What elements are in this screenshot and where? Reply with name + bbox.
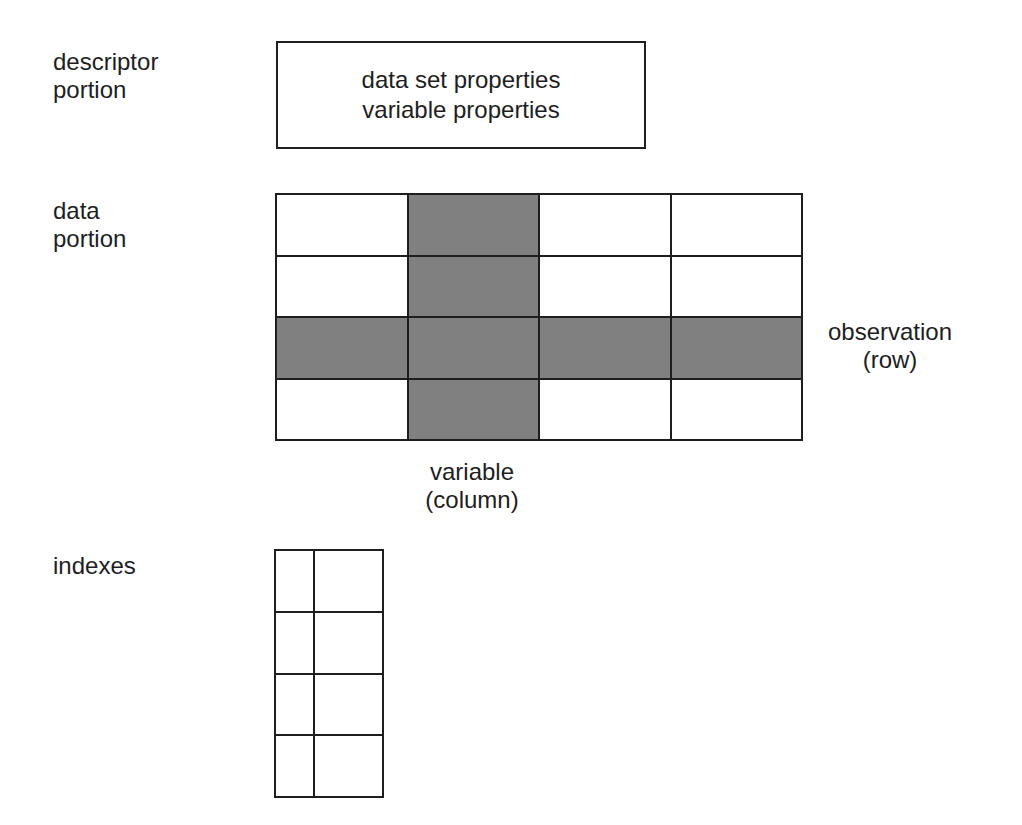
data-cell bbox=[277, 257, 409, 319]
data-cell bbox=[540, 380, 672, 442]
variable-column-cell bbox=[409, 380, 541, 442]
index-key-cell bbox=[276, 613, 315, 675]
variable-column-label: variable (column) bbox=[397, 458, 547, 514]
data-set-properties-text: data set properties bbox=[362, 65, 561, 95]
observation-row-cell bbox=[277, 318, 409, 380]
index-pointer-cell bbox=[315, 736, 384, 798]
data-portion-label: data portion bbox=[53, 197, 126, 253]
data-cell bbox=[672, 195, 804, 257]
index-key-cell bbox=[276, 551, 315, 613]
data-cell bbox=[540, 257, 672, 319]
indexes-grid bbox=[274, 549, 384, 798]
data-cell bbox=[277, 195, 409, 257]
variable-properties-text: variable properties bbox=[362, 95, 559, 125]
indexes-label: indexes bbox=[53, 552, 136, 580]
variable-column-cell bbox=[409, 257, 541, 319]
observation-row-cell bbox=[409, 318, 541, 380]
observation-row-cell bbox=[540, 318, 672, 380]
data-cell bbox=[540, 195, 672, 257]
descriptor-box: data set properties variable properties bbox=[276, 41, 646, 149]
data-cell bbox=[672, 380, 804, 442]
index-pointer-cell bbox=[315, 551, 384, 613]
index-key-cell bbox=[276, 736, 315, 798]
data-cell bbox=[277, 380, 409, 442]
data-portion-grid bbox=[275, 193, 803, 441]
index-pointer-cell bbox=[315, 675, 384, 737]
observation-row-label: observation (row) bbox=[815, 318, 965, 374]
index-pointer-cell bbox=[315, 613, 384, 675]
variable-column-cell bbox=[409, 195, 541, 257]
descriptor-portion-label: descriptor portion bbox=[53, 48, 158, 104]
observation-row-cell bbox=[672, 318, 804, 380]
index-key-cell bbox=[276, 675, 315, 737]
data-cell bbox=[672, 257, 804, 319]
